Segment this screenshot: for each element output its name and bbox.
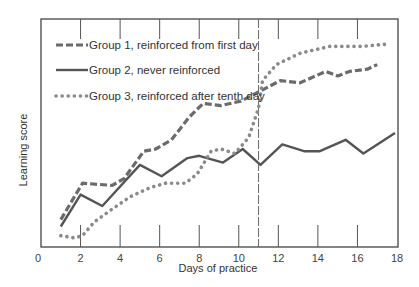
x-tick-label: 4 [117, 252, 123, 264]
legend: Group 1, reinforced from first dayGroup … [56, 39, 265, 102]
series-line-group-1 [61, 65, 377, 220]
y-axis-title: Learning score [17, 114, 29, 187]
x-tick-label: 2 [77, 252, 83, 264]
plot-area [41, 19, 398, 247]
tick-marks [81, 19, 358, 247]
x-tick-label: 18 [391, 252, 403, 264]
legend-label: Group 2, never reinforced [89, 64, 220, 76]
x-tick-label: 12 [272, 252, 284, 264]
x-tick-label: 0 [35, 252, 41, 264]
x-tick-label: 14 [312, 252, 324, 264]
legend-label: Group 3, reinforced after tenth day [89, 90, 265, 102]
legend-label: Group 1, reinforced from first day [89, 39, 258, 51]
x-tick-label: 16 [351, 252, 363, 264]
chart: 024681012141618 Group 1, reinforced from… [0, 0, 419, 287]
series-line-group-2 [61, 133, 395, 227]
x-tick-label: 6 [157, 252, 163, 264]
x-axis-title: Days of practice [179, 262, 258, 274]
